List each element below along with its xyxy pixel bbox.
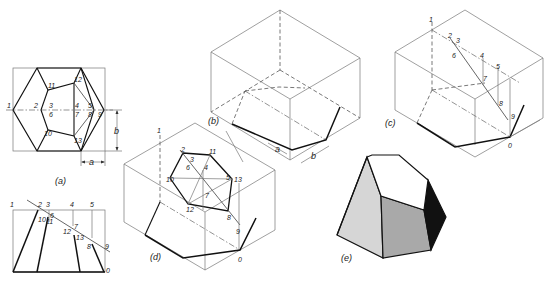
isometric-construction-figure: b a 1 2 3 4 5 6 7 8 9 10 11 12 13 (a) 1	[0, 0, 550, 281]
point-label: 0	[238, 256, 242, 263]
point-label: 1	[7, 102, 11, 109]
point-label: 12	[63, 228, 71, 235]
view-d: 1 2 3 4 5 6 7 8 9 10 11 12 13 0 (d)	[124, 123, 275, 270]
point-label: 9	[105, 243, 109, 250]
caption-d: (d)	[150, 252, 161, 262]
point-label: 8	[499, 100, 503, 107]
caption-e: (e)	[341, 253, 352, 263]
point-label: 10	[166, 176, 174, 183]
point-label: 2	[33, 102, 38, 109]
view-a-front: b a 1 2 3 4 5 6 7 8 9 10 11 12 13 (a)	[6, 68, 122, 186]
caption-b: (b)	[208, 116, 219, 126]
point-label: 2	[447, 32, 452, 39]
point-label: 9	[511, 113, 515, 120]
point-label: 12	[186, 206, 194, 213]
point-label: 7	[205, 192, 210, 199]
dim-b-label-b: b	[311, 151, 316, 161]
point-label: 10	[38, 216, 46, 223]
point-label: 11	[209, 148, 216, 155]
point-label: 1	[429, 16, 433, 23]
point-label: 3	[46, 201, 50, 208]
point-label: 1	[10, 201, 14, 208]
point-label: 5	[496, 63, 500, 70]
point-label: 6	[186, 164, 190, 171]
caption-c: (c)	[385, 118, 396, 128]
view-c: 1 2 3 4 5 6 7 8 9 0 (c)	[385, 10, 543, 157]
point-label: 13	[234, 176, 242, 183]
point-label: 10	[44, 130, 52, 137]
point-label: 6	[49, 111, 53, 118]
view-e-solid: (e)	[337, 155, 446, 263]
point-label: 13	[76, 234, 84, 241]
point-label: 11	[48, 82, 55, 89]
point-label: 1	[157, 127, 161, 134]
point-label: 8	[227, 214, 231, 221]
view-b: a b (b)	[208, 10, 360, 163]
point-label: 4	[70, 201, 74, 208]
point-label: 4	[204, 164, 208, 171]
caption-a: (a)	[55, 176, 66, 186]
point-label: 12	[74, 76, 82, 83]
point-label: 2	[180, 146, 185, 153]
dim-b-label-a: b	[114, 126, 119, 136]
point-label: 0	[106, 267, 110, 274]
point-label: 3	[190, 156, 194, 163]
dim-a-label-b: a	[275, 144, 280, 154]
point-label: 7	[74, 223, 79, 230]
point-label: 5	[88, 102, 92, 109]
point-label: 9	[98, 111, 102, 118]
point-label: 7	[75, 111, 80, 118]
point-label: 8	[87, 243, 91, 250]
point-label: 8	[88, 111, 92, 118]
point-label: 4	[75, 102, 79, 109]
point-label: 3	[456, 37, 460, 44]
dim-a-label-a: a	[89, 157, 94, 167]
view-a-side: 1 2 3 4 5 6 7 8 9 10 11 12 13 0	[10, 200, 110, 274]
point-label: 3	[49, 102, 53, 109]
point-label: 4	[480, 52, 484, 59]
point-label: 9	[236, 228, 240, 235]
point-label: 2	[37, 201, 42, 208]
point-label: 11	[46, 218, 53, 225]
point-label: 5	[90, 201, 94, 208]
point-label: 0	[508, 142, 512, 149]
point-label: 13	[74, 137, 82, 144]
point-label: 7	[483, 75, 488, 82]
point-label: 5	[226, 174, 230, 181]
point-label: 6	[452, 52, 456, 59]
